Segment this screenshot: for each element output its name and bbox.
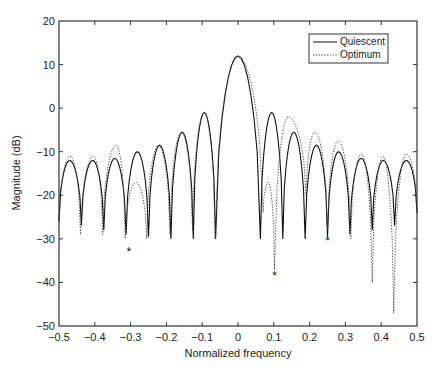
y-tick-label: −10: [36, 146, 55, 158]
x-tick-label: −0.4: [84, 331, 106, 343]
y-tick-label: −30: [36, 233, 55, 245]
plot-frame: [59, 21, 417, 326]
optimum-curve: [59, 56, 417, 313]
y-axis-label: Magnitude (dB): [10, 135, 22, 210]
plot-curves: [59, 56, 417, 313]
x-tick-label: 0.3: [338, 331, 353, 343]
x-tick-label: 0.4: [374, 331, 389, 343]
legend-label-optimum: Optimum: [340, 49, 381, 60]
x-tick-label: 0.1: [266, 331, 281, 343]
x-tick-label: 0.5: [409, 331, 424, 343]
x-axis-label: Normalized frequency: [185, 347, 292, 359]
asterisk-marker: *: [272, 269, 277, 283]
asterisk-marker: *: [126, 245, 131, 259]
asterisk-marker: *: [325, 234, 330, 248]
x-tick-label: 0.2: [302, 331, 317, 343]
x-axis-ticks: −0.5−0.4−0.3−0.2−0.100.10.20.30.40.5: [48, 21, 425, 343]
legend: Quiescent Optimum: [309, 34, 388, 63]
annotation-marks: ***: [126, 234, 330, 283]
x-tick-label: −0.5: [48, 331, 70, 343]
y-tick-label: 10: [43, 59, 55, 71]
legend-label-quiescent: Quiescent: [340, 36, 385, 47]
x-tick-label: −0.1: [191, 331, 213, 343]
magnitude-chart: *** −0.5−0.4−0.3−0.2−0.100.10.20.30.40.5…: [0, 0, 439, 378]
y-tick-label: 20: [43, 15, 55, 27]
x-tick-label: −0.3: [120, 331, 142, 343]
y-tick-label: −50: [36, 320, 55, 332]
quiescent-curve: [59, 56, 417, 239]
y-tick-label: −20: [36, 189, 55, 201]
x-tick-label: 0: [235, 331, 241, 343]
x-tick-label: −0.2: [156, 331, 178, 343]
y-tick-label: −40: [36, 276, 55, 288]
y-tick-label: 0: [49, 102, 55, 114]
